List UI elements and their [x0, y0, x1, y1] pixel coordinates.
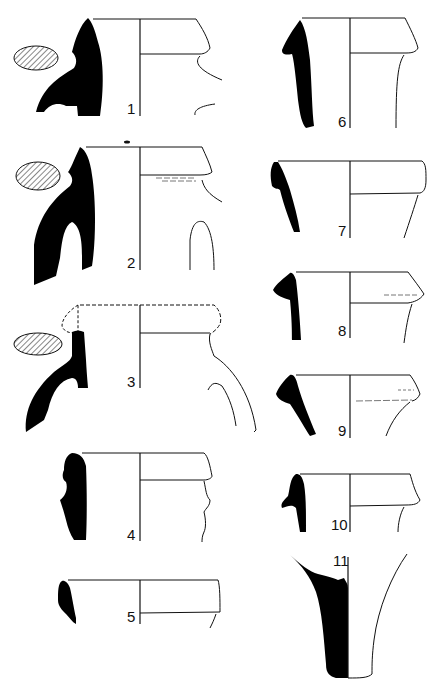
figure-label: 7 [338, 222, 346, 239]
figure-label: 3 [127, 373, 135, 390]
profile-section-4 [60, 453, 87, 540]
figure-11: 11 [290, 552, 407, 678]
figure-label: 5 [127, 608, 135, 625]
profile-section-5 [58, 581, 76, 624]
figure-7: 7 [271, 161, 426, 239]
handle-section-3 [14, 333, 62, 355]
handle-section-1 [14, 46, 58, 70]
profile-section-6 [282, 20, 314, 128]
figure-label: 9 [338, 422, 346, 439]
figure-label: 6 [338, 113, 346, 130]
figure-6: 6 [282, 18, 418, 130]
figure-8: 8 [273, 272, 424, 343]
figure-5: 5 [58, 580, 220, 628]
pottery-plate: 1 2 3 4 [0, 0, 437, 691]
figure-label: 10 [331, 516, 348, 533]
figure-2: 2 [16, 141, 222, 286]
figure-label: 1 [127, 100, 135, 117]
handle-section-2 [16, 162, 60, 190]
figure-10: 10 [281, 474, 420, 533]
profile-section-9 [276, 375, 316, 436]
figure-4: 4 [60, 453, 212, 543]
figure-9: 9 [276, 375, 420, 439]
profile-section-8 [273, 273, 301, 340]
profile-section-10 [281, 474, 306, 532]
figure-1: 1 [14, 18, 222, 117]
figure-label: 11 [333, 552, 349, 569]
figure-label: 2 [127, 254, 135, 271]
figure-label: 4 [127, 526, 135, 543]
figure-label: 8 [338, 322, 346, 339]
figure-3: 3 [14, 305, 256, 432]
profile-section-11 [290, 555, 348, 678]
profile-section-7 [271, 162, 300, 232]
